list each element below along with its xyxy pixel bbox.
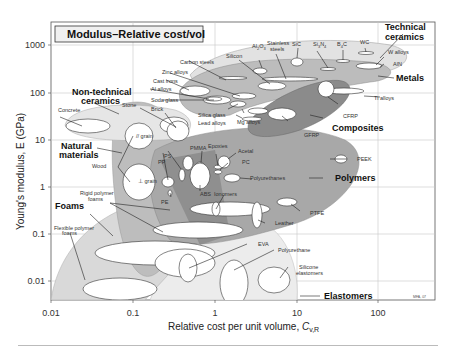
bubble-rigid-foams-1 <box>153 222 243 238</box>
bottom-divider <box>18 345 438 346</box>
family-label-composites: Composites <box>332 123 384 133</box>
family-label-technical-ceramics-2: ceramics <box>385 32 424 42</box>
label-pe: PE <box>161 199 169 205</box>
x-tick-10: 10 <box>292 308 302 318</box>
y-axis-labels: 1000 100 10 1 0.1 0.01 <box>25 40 45 286</box>
label-stainless-2: steels <box>270 46 285 52</box>
label-gfrp: GFRP <box>304 132 320 138</box>
x-tick-0.01: 0.01 <box>42 308 60 318</box>
x-tick-0.1: 0.1 <box>127 308 140 318</box>
bubble-carbon-steels <box>219 77 247 80</box>
label-aln: AlN <box>393 61 402 67</box>
y-tick-100: 100 <box>30 88 45 98</box>
label-leather: Leather <box>275 220 294 226</box>
bubble-concrete <box>66 119 110 133</box>
y-tick-0.1: 0.1 <box>32 229 45 239</box>
label-silicon: Silicon <box>226 53 242 59</box>
family-label-technical-ceramics: Technical <box>385 22 426 32</box>
family-label-polymers: Polymers <box>335 173 376 183</box>
label-stone: Stone <box>122 102 136 108</box>
label-pc: PC <box>242 159 250 165</box>
label-flex-foams-2: foams <box>62 230 77 236</box>
label-ti-alloys: Ti alloys <box>374 95 394 101</box>
bubble-ps-cluster <box>183 156 193 170</box>
bubble-polyurethane <box>220 260 248 306</box>
bubble-ptfe <box>277 198 297 206</box>
x-axis-labels: 0.01 0.1 1 10 100 <box>42 308 385 318</box>
label-abs: ABS <box>200 191 211 197</box>
bubble-leather <box>252 202 262 228</box>
bubble-eva <box>179 254 197 282</box>
bubble-gfrp <box>268 108 296 120</box>
label-ptfe: PTFE <box>310 210 324 216</box>
label-par-grain: // grain <box>136 133 153 139</box>
credit-text: MFA, 07 <box>413 295 426 299</box>
y-tick-1000: 1000 <box>25 40 45 50</box>
label-perp-grain: ⊥ grain <box>138 178 157 184</box>
family-label-metals: Metals <box>396 73 424 83</box>
bubble-cfrp <box>318 81 334 97</box>
bubble-stainless <box>262 77 318 81</box>
bubble-al2o3 <box>253 68 267 74</box>
label-brick: Brick <box>151 106 163 112</box>
label-concrete: Concrete <box>58 107 80 113</box>
family-label-elastomers: Elastomers <box>324 291 373 301</box>
label-silicone-2: elastomers <box>296 270 323 276</box>
x-tick-1: 1 <box>212 308 217 318</box>
label-carbon-steels: Carbon steels <box>180 59 214 65</box>
bubble-w-alloys <box>356 63 382 69</box>
label-wood: Wood <box>92 163 106 169</box>
label-sic: SiC <box>292 41 301 47</box>
label-polyurethane: Polyurethane <box>278 247 310 253</box>
bubble-mg <box>248 108 268 114</box>
family-label-foams: Foams <box>55 201 84 211</box>
label-lead-alloys: Lead alloys <box>198 120 226 126</box>
label-wc: WC <box>360 39 369 45</box>
label-pp: PP <box>158 159 166 165</box>
bubble-sic <box>291 58 303 66</box>
x-axis-title: Relative cost per unit volume, Cv,R <box>168 321 319 333</box>
label-epoxies: Epoxies <box>208 143 228 149</box>
label-acetal: Acetal <box>238 148 253 154</box>
label-cfrp: CFRP <box>343 113 358 119</box>
family-label-natural-2: materials <box>59 150 99 160</box>
bubble-ps <box>179 169 185 181</box>
bubble-cast-irons <box>180 86 210 96</box>
label-al-alloys: Al alloys <box>151 86 172 92</box>
label-mg-alloys: Mg alloys <box>237 119 260 125</box>
y-tick-0.01: 0.01 <box>27 276 45 286</box>
label-pmma: PMMA <box>190 145 207 151</box>
family-label-nontech-ceramics-2: ceramics <box>81 96 120 106</box>
y-tick-1: 1 <box>40 182 45 192</box>
y-tick-10: 10 <box>35 135 45 145</box>
label-rigid-foams-2: foams <box>88 196 103 202</box>
ashby-chart: Modulus–Relative cost/vol Technical cera… <box>0 0 456 355</box>
bubble-polyurethanes <box>224 174 240 182</box>
bubble-silicon <box>258 82 286 90</box>
label-silica-glass: Silica glass <box>198 112 226 118</box>
bubble-flex-foams <box>83 278 157 300</box>
label-cast-irons: Cast irons <box>153 78 178 84</box>
label-ionomers: Ionomers <box>214 191 237 197</box>
y-axis-title: Young's modulus, E (GPa) <box>15 113 26 230</box>
label-zinc: Zinc alloys <box>162 69 188 75</box>
label-w-alloys: W alloys <box>388 49 409 55</box>
x-tick-100: 100 <box>370 308 385 318</box>
chart-title: Modulus–Relative cost/vol <box>67 28 205 40</box>
bubble-pc <box>214 170 222 174</box>
label-soda-glass: Soda glass <box>151 97 178 103</box>
label-polyurethanes: Polyurethanes <box>250 175 285 181</box>
label-peek: PEEK <box>357 156 372 162</box>
label-eva: EVA <box>258 241 269 247</box>
bubble-zinc <box>232 93 256 99</box>
